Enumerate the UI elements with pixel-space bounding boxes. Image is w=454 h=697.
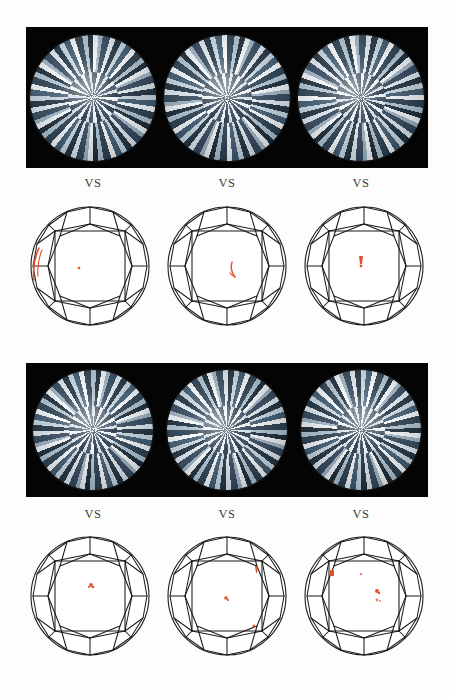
gem-highlight — [148, 27, 305, 168]
gem-photo-2 — [148, 27, 305, 168]
clarity-plot-4 — [22, 528, 158, 664]
clarity-plot-svg-4 — [25, 528, 155, 664]
caption-row-bottom: VS VS VS — [26, 505, 428, 523]
clarity-grade-label-2: VS — [160, 176, 294, 191]
clarity-plot-svg-3 — [299, 198, 429, 334]
clarity-plot-svg-6 — [299, 528, 429, 664]
clarity-plot-svg-5 — [162, 528, 292, 664]
photo-strip-top — [26, 27, 428, 168]
clarity-plot-5 — [159, 528, 295, 664]
plot-row-top — [22, 198, 432, 338]
photo-strip-bottom — [26, 363, 428, 497]
gem-photo-6 — [278, 363, 428, 497]
clarity-grade-label-3: VS — [294, 176, 428, 191]
clarity-plot-3 — [296, 198, 432, 334]
clarity-plot-2 — [159, 198, 295, 334]
clarity-plot-6 — [296, 528, 432, 664]
diamond-clarity-figure: VS VS VS — [0, 0, 454, 697]
gem-highlight — [150, 363, 304, 497]
gem-highlight — [287, 27, 428, 168]
gem-photo-3 — [287, 27, 428, 168]
gem-photo-1 — [30, 35, 156, 161]
gem-highlight — [278, 363, 428, 497]
clarity-plot-svg-1 — [25, 198, 155, 334]
plot-row-bottom — [22, 528, 432, 668]
caption-row-top: VS VS VS — [26, 174, 428, 192]
clarity-plot-svg-2 — [162, 198, 292, 334]
clarity-grade-label-1: VS — [26, 176, 160, 191]
clarity-grade-label-6: VS — [294, 507, 428, 522]
gem-highlight — [30, 35, 156, 161]
clarity-plot-1 — [22, 198, 158, 334]
gem-highlight — [26, 363, 161, 497]
gem-photo-5 — [150, 363, 304, 497]
gem-photo-4 — [26, 363, 161, 497]
clarity-grade-label-5: VS — [160, 507, 294, 522]
clarity-grade-label-4: VS — [26, 507, 160, 522]
